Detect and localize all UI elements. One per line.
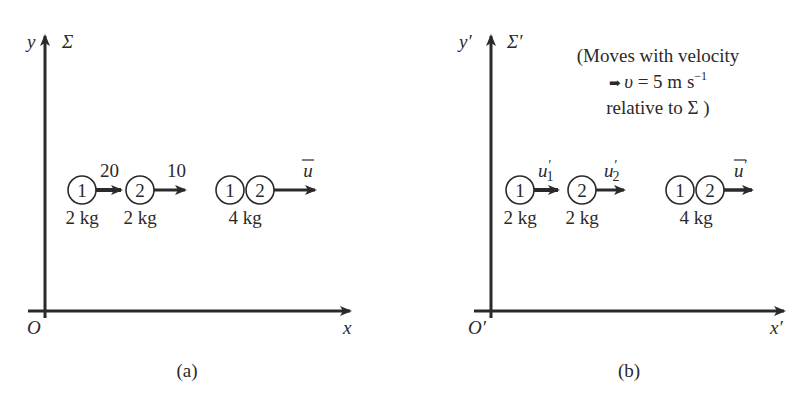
combined-velocity-label: u (303, 160, 313, 181)
panel-a: y Σ O x 1 20 2 kg 2 10 2 kg 1 2 u (25, 31, 352, 382)
ball-1-prime: 1 (506, 176, 534, 204)
combined-velocity-label-prime: u′ (734, 158, 748, 181)
mass-label-1-prime: 2 kg (503, 207, 537, 228)
svg-text:1: 1 (675, 180, 685, 201)
svg-text:1: 1 (77, 180, 87, 201)
velocity-label-2-prime: u′2 (604, 158, 620, 184)
caption-b: (b) (618, 360, 640, 382)
note-line-1: (Moves with velocity (577, 45, 740, 67)
combined-mass-label: 4 kg (228, 207, 262, 228)
origin-prime-label: O′ (468, 317, 487, 338)
combined-ball-2: 2 (246, 176, 274, 204)
x-prime-axis-label: x′ (769, 317, 783, 338)
svg-text:1: 1 (515, 180, 525, 201)
mass-label-1: 2 kg (65, 207, 99, 228)
mass-label-2-prime: 2 kg (565, 207, 599, 228)
combined-ball-2-prime: 2 (696, 176, 724, 204)
frames-diagram: y Σ O x 1 20 2 kg 2 10 2 kg 1 2 u (0, 0, 805, 398)
panel-b: y′ Σ′ O′ x′ (Moves with velocity ➡ υ = 5… (457, 31, 784, 382)
velocity-label-1-prime: u′1 (538, 158, 554, 184)
y-prime-axis-label: y′ (457, 31, 472, 52)
frame-velocity-note: (Moves with velocity ➡ υ = 5 m s−1 relat… (577, 45, 740, 119)
svg-text:1: 1 (225, 180, 235, 201)
y-axis-label: y (25, 31, 36, 52)
caption-a: (a) (176, 360, 197, 382)
velocity-label-2: 10 (167, 160, 186, 181)
note-line-3: relative to Σ ) (606, 97, 709, 119)
svg-text:2: 2 (705, 180, 715, 201)
note-line-2: ➡ υ = 5 m s−1 (609, 69, 707, 92)
svg-text:2: 2 (577, 180, 587, 201)
origin-label: O (27, 317, 41, 338)
ball-1: 1 (68, 176, 96, 204)
combined-mass-label-prime: 4 kg (679, 207, 713, 228)
mass-label-2: 2 kg (123, 207, 157, 228)
frame-label-sigma-prime: Σ′ (506, 31, 523, 52)
frame-label-sigma: Σ (61, 31, 73, 52)
svg-text:2: 2 (135, 180, 145, 201)
combined-ball-1-prime: 1 (666, 176, 694, 204)
velocity-label-1: 20 (100, 160, 119, 181)
x-axis-label: x (342, 317, 352, 338)
ball-2: 2 (126, 176, 154, 204)
ball-2-prime: 2 (568, 176, 596, 204)
svg-text:2: 2 (255, 180, 265, 201)
combined-ball-1: 1 (216, 176, 244, 204)
